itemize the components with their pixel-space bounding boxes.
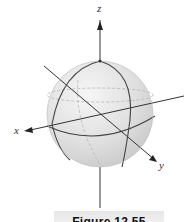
sphere-figure: z x y (0, 0, 196, 222)
z-axis-label: z (97, 2, 101, 14)
north-pole-point (98, 59, 101, 62)
x-axis-arrow-icon (24, 127, 33, 133)
figure-caption: Figure 12.55 (54, 211, 164, 222)
sphere-diagram (0, 0, 196, 222)
y-axis-label: y (159, 159, 164, 171)
caption-text: Figure 12.55 (72, 215, 146, 222)
z-axis-arrow-icon (97, 21, 103, 30)
x-axis-label: x (14, 124, 19, 136)
